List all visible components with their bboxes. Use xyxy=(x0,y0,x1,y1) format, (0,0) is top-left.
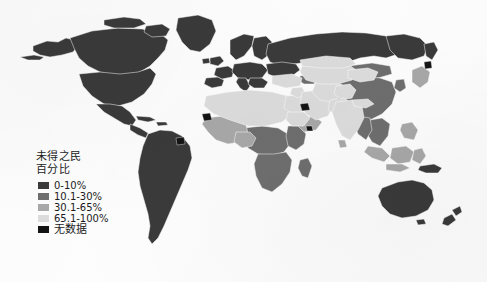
region-no-data-guyana xyxy=(176,137,185,145)
legend-entry: 65.1-100% xyxy=(36,213,146,224)
legend-entry-label: 无数据 xyxy=(54,224,87,235)
region-hispaniola xyxy=(156,122,168,126)
region-no-data-arabia xyxy=(300,103,310,111)
legend-entry-list: 0-10% 10.1-30% 30.1-65% 65.1-100% 无数据 xyxy=(36,180,146,235)
world-map xyxy=(0,0,487,282)
legend-entry-label: 10.1-30% xyxy=(54,191,102,202)
legend-title-line-2: 百分比 xyxy=(36,163,146,176)
legend-entry: 10.1-30% xyxy=(36,191,146,202)
legend-entry-label: 0-10% xyxy=(54,180,86,191)
region-no-data-horn xyxy=(306,126,313,131)
region-tasmania xyxy=(416,219,426,225)
legend-swatch-icon xyxy=(38,204,49,211)
legend-entry: 无数据 xyxy=(36,224,146,235)
region-no-data-west-africa xyxy=(202,113,212,121)
legend-swatch-icon xyxy=(38,193,49,200)
legend-swatch-icon xyxy=(38,226,49,233)
region-no-data-japan-n xyxy=(424,61,432,69)
legend-swatch-icon xyxy=(38,182,49,189)
legend-title-line-1: 未得之民 xyxy=(36,150,146,163)
legend: 未得之民 百分比 0-10% 10.1-30% 30.1-65% 65.1-10… xyxy=(36,150,146,235)
legend-entry-label: 30.1-65% xyxy=(54,202,102,213)
legend-entry: 0-10% xyxy=(36,180,146,191)
world-map-svg xyxy=(0,0,487,282)
map-figure: 未得之民 百分比 0-10% 10.1-30% 30.1-65% 65.1-10… xyxy=(0,0,487,282)
legend-swatch-icon xyxy=(38,215,49,222)
region-ireland xyxy=(202,58,210,64)
legend-entry: 30.1-65% xyxy=(36,202,146,213)
region-central-europe xyxy=(232,62,268,80)
